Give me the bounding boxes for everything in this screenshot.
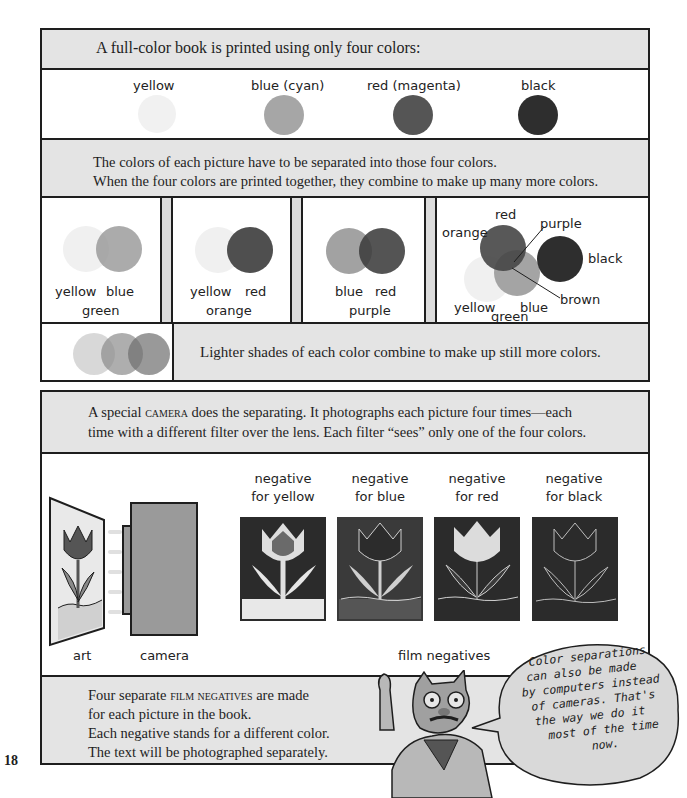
tulip-negative-icon xyxy=(434,517,520,621)
note-text: Four separate film negatives are made fo… xyxy=(88,686,330,762)
label-purple: purple xyxy=(540,216,582,231)
swatch-label-black: black xyxy=(521,78,556,93)
swatch-label-yellow: yellow xyxy=(133,78,175,93)
negative-blue xyxy=(337,517,423,621)
swatch-yellow xyxy=(138,95,176,133)
swatch-label-blue: blue (cyan) xyxy=(251,78,324,93)
section2-header-line2: time with a different filter over the le… xyxy=(88,424,586,441)
art-label: art xyxy=(73,648,91,663)
note-line2: for each picture in the book. xyxy=(88,705,330,724)
negative-label-black: negative for black xyxy=(524,470,624,506)
tulip-negative-icon xyxy=(337,517,423,621)
label-yellow: yellow xyxy=(55,284,97,299)
circle-red xyxy=(227,227,273,273)
divider xyxy=(40,452,650,454)
label-orange: orange xyxy=(206,303,252,318)
swatch-blue xyxy=(264,95,304,135)
panel-separator xyxy=(160,198,173,324)
tulip-negative-icon xyxy=(240,517,326,621)
section2-header-line1: A special camera does the separating. It… xyxy=(88,404,572,421)
label-blue: blue xyxy=(106,284,134,299)
divider xyxy=(40,68,650,70)
circle-red xyxy=(359,228,405,274)
panel-separator xyxy=(290,198,303,324)
camera-label: camera xyxy=(140,648,189,663)
label-black: black xyxy=(588,251,623,266)
negative-red xyxy=(434,517,520,621)
swatch-red xyxy=(393,95,433,135)
tulip-negative-icon xyxy=(532,517,618,621)
note-line1: Four separate film negatives are made xyxy=(88,686,330,705)
lighter-shades-text: Lighter shades of each color combine to … xyxy=(200,344,601,361)
circle-light-red xyxy=(128,333,170,375)
label-red: red xyxy=(375,284,396,299)
label-blue: blue xyxy=(335,284,363,299)
label-red: red xyxy=(495,207,516,222)
swatch-label-red: red (magenta) xyxy=(367,78,461,93)
explanation-line2: When the four colors are printed togethe… xyxy=(93,173,598,190)
note-line3: Each negative stands for a different col… xyxy=(88,724,330,743)
negative-yellow xyxy=(240,517,326,621)
circle-blue xyxy=(96,226,142,272)
section1-header: A full-color book is printed using only … xyxy=(96,37,420,59)
label-purple: purple xyxy=(349,303,391,318)
negative-label-blue: negative for blue xyxy=(330,470,430,506)
label-orange: orange xyxy=(442,225,488,240)
explanation-line1: The colors of each picture have to be se… xyxy=(93,154,497,171)
label-green: green xyxy=(82,303,120,318)
negative-label-red: negative for red xyxy=(427,470,527,506)
section2-header-band xyxy=(42,392,648,452)
label-yellow: yellow xyxy=(454,300,496,315)
divider xyxy=(40,196,650,198)
label-yellow: yellow xyxy=(190,284,232,299)
label-red: red xyxy=(245,284,266,299)
art-illustration xyxy=(48,490,108,650)
swatch-black xyxy=(518,95,558,135)
note-line4: The text will be photographed separately… xyxy=(88,743,330,762)
negative-label-yellow: negative for yellow xyxy=(233,470,333,506)
negative-black xyxy=(532,517,618,621)
speech-bubble-text: Color separations can also be made by co… xyxy=(518,638,687,760)
camera-body xyxy=(130,502,198,636)
page-number: 18 xyxy=(4,753,18,769)
label-brown: brown xyxy=(560,292,600,307)
